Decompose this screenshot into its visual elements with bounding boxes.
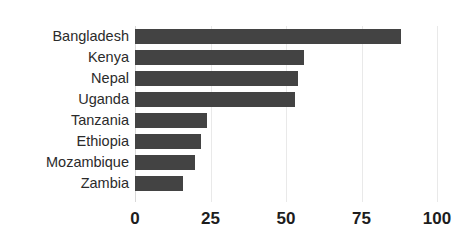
x-tick-label-25: 25 <box>201 206 220 232</box>
bar-tanzania[interactable] <box>135 113 207 128</box>
y-axis-label-kenya: Kenya <box>0 47 129 68</box>
y-axis-label-mozambique: Mozambique <box>0 152 129 173</box>
bar-mozambique[interactable] <box>135 155 195 170</box>
bar-row[interactable] <box>135 26 437 47</box>
y-axis-category-labels: BangladeshKenyaNepalUgandaTanzaniaEthiop… <box>0 26 129 202</box>
bars-group <box>135 26 437 202</box>
bar-row[interactable] <box>135 47 437 68</box>
bar-kenya[interactable] <box>135 50 304 65</box>
bar-row[interactable] <box>135 68 437 89</box>
y-axis-label-bangladesh: Bangladesh <box>0 26 129 47</box>
bar-row[interactable] <box>135 110 437 131</box>
y-axis-label-ethiopia: Ethiopia <box>0 131 129 152</box>
bar-chart-figure: BangladeshKenyaNepalUgandaTanzaniaEthiop… <box>0 0 457 243</box>
x-axis-tick-labels: 0255075100 <box>135 206 437 232</box>
chart-title <box>0 0 457 2</box>
y-axis-label-tanzania: Tanzania <box>0 110 129 131</box>
y-axis-label-zambia: Zambia <box>0 173 129 194</box>
bar-uganda[interactable] <box>135 92 295 107</box>
bar-row[interactable] <box>135 89 437 110</box>
plot-area <box>135 26 437 202</box>
bar-row[interactable] <box>135 131 437 152</box>
x-tick-label-100: 100 <box>423 206 451 232</box>
x-tick-label-50: 50 <box>277 206 296 232</box>
bar-ethiopia[interactable] <box>135 134 201 149</box>
x-tick-label-0: 0 <box>130 206 139 232</box>
bar-row[interactable] <box>135 173 437 194</box>
bar-nepal[interactable] <box>135 71 298 86</box>
bar-bangladesh[interactable] <box>135 29 401 44</box>
bar-zambia[interactable] <box>135 176 183 191</box>
y-axis-label-uganda: Uganda <box>0 89 129 110</box>
y-axis-label-nepal: Nepal <box>0 68 129 89</box>
x-tick-label-75: 75 <box>352 206 371 232</box>
bar-row[interactable] <box>135 152 437 173</box>
gridline-100 <box>437 26 438 202</box>
